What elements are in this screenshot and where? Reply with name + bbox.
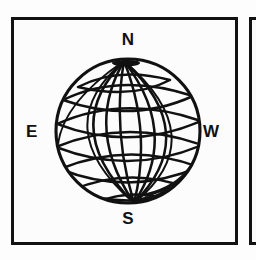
compass-label-north: N (0, 31, 256, 48)
compass-label-east: E (26, 123, 37, 140)
compass-label-south: S (0, 210, 256, 227)
figure-page: N E W S (0, 0, 256, 260)
compass-label-west: W (203, 123, 219, 140)
